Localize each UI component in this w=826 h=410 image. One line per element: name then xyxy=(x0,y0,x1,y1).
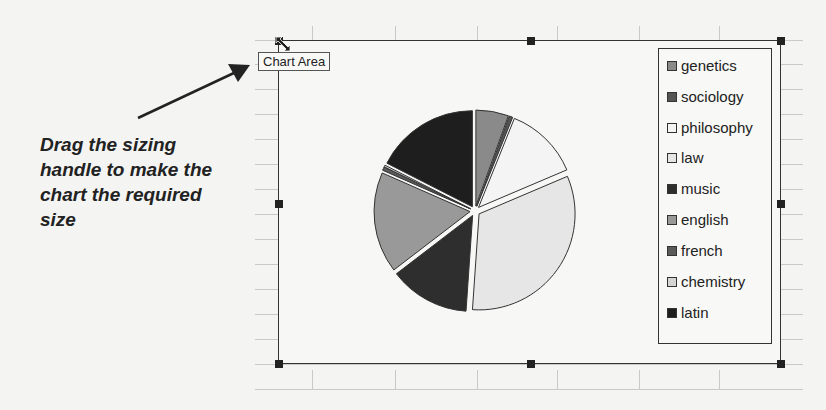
legend-label: english xyxy=(681,211,729,228)
legend-label: music xyxy=(681,180,720,197)
legend-item-genetics[interactable]: genetics xyxy=(667,57,737,74)
legend-item-sociology[interactable]: sociology xyxy=(667,88,744,105)
legend-item-philosophy[interactable]: philosophy xyxy=(667,119,753,136)
legend-label: latin xyxy=(681,304,709,321)
legend-label: genetics xyxy=(681,57,737,74)
chart-legend[interactable]: genetics sociology philosophy law music … xyxy=(658,48,772,344)
legend-item-latin[interactable]: latin xyxy=(667,304,709,321)
legend-item-music[interactable]: music xyxy=(667,180,720,197)
legend-label: philosophy xyxy=(681,119,753,136)
legend-label: french xyxy=(681,242,723,259)
legend-swatch xyxy=(667,61,677,71)
legend-swatch xyxy=(667,184,677,194)
legend-item-french[interactable]: french xyxy=(667,242,723,259)
legend-swatch xyxy=(667,277,677,287)
legend-item-law[interactable]: law xyxy=(667,149,704,166)
legend-item-chemistry[interactable]: chemistry xyxy=(667,273,745,290)
legend-swatch xyxy=(667,123,677,133)
legend-swatch xyxy=(667,153,677,163)
legend-swatch xyxy=(667,246,677,256)
legend-label: sociology xyxy=(681,88,744,105)
legend-label: chemistry xyxy=(681,273,745,290)
legend-swatch xyxy=(667,92,677,102)
legend-swatch xyxy=(667,308,677,318)
legend-swatch xyxy=(667,215,677,225)
legend-item-english[interactable]: english xyxy=(667,211,729,228)
legend-label: law xyxy=(681,149,704,166)
